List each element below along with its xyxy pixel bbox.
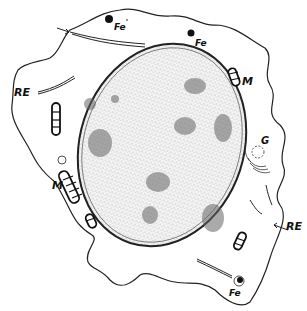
label-fe-top-left: Fe [114, 22, 126, 32]
label-fe-bottom: Fe [229, 288, 241, 298]
label-m-left: M [52, 179, 63, 192]
label-m-right: M [242, 75, 253, 88]
cell-diagram: Fe Fe Fe M M RE RE G [0, 0, 307, 311]
golgi-apparatus [245, 146, 270, 173]
label-fe-top-right: Fe [195, 38, 207, 48]
nucleus [52, 22, 272, 269]
label-g: G [261, 135, 269, 146]
vesicle [58, 156, 66, 164]
label-re-left: RE [14, 86, 30, 99]
label-re-right: RE [286, 220, 302, 233]
